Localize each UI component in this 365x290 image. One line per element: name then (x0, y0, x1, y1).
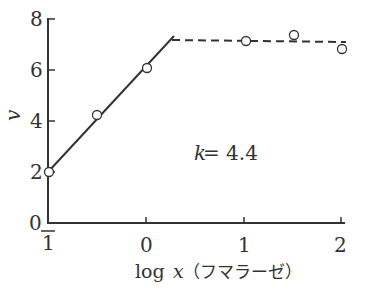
linear-fit-line (48, 36, 174, 172)
data-point (338, 45, 347, 54)
y-axis-label: v (1, 109, 25, 121)
x-tick-label-2: 2 (334, 233, 347, 257)
y-tick-label-8: 8 (30, 7, 43, 31)
plateau-dashed-line (172, 40, 346, 42)
x-tick-label-1: 1 (238, 233, 251, 257)
y-tick-label-0: 0 (29, 211, 42, 235)
data-point (93, 111, 102, 120)
y-tick-label-4: 4 (30, 109, 43, 133)
x-tick-label-minus1: 1 (41, 231, 55, 255)
svg-text:（フマラーゼ）: （フマラーゼ） (183, 262, 302, 282)
chart-svg: 8 6 4 2 0 1 0 1 2 v log x （フマラーゼ） k = 4.… (0, 0, 365, 290)
y-ticks (48, 19, 55, 172)
k-annotation: k = 4.4 (194, 141, 258, 165)
data-point (290, 31, 299, 40)
data-point (45, 168, 54, 177)
data-point (242, 37, 251, 46)
y-tick-label-2: 2 (30, 160, 43, 184)
svg-text:= 4.4: = 4.4 (203, 141, 258, 165)
chart-container: 8 6 4 2 0 1 0 1 2 v log x （フマラーゼ） k = 4.… (0, 0, 365, 290)
x-tick-label-0: 0 (140, 233, 153, 257)
svg-text:1: 1 (42, 231, 55, 255)
svg-text:log: log (135, 260, 165, 282)
data-point (143, 64, 152, 73)
x-axis-label: log x （フマラーゼ） (135, 260, 302, 282)
y-tick-label-6: 6 (30, 58, 43, 82)
